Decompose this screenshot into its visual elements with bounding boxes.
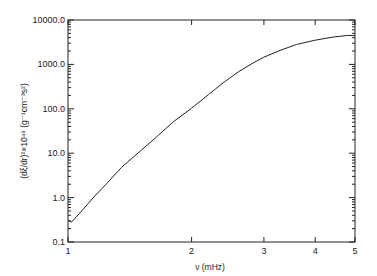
y-tick-label: 10000.0	[32, 15, 65, 25]
y-tick-label: 1000.0	[37, 59, 65, 69]
chart: 0.11.010.0100.01000.010000.0 12345 (dξ/d…	[0, 0, 377, 276]
x-tick-label: 4	[313, 246, 318, 256]
x-axis-label: ν (mHz)	[195, 262, 225, 272]
x-tick-label: 5	[352, 246, 357, 256]
y-tick-label: 10.0	[47, 148, 65, 158]
y-tick-label: 1.0	[52, 193, 65, 203]
y-tick-label: 100.0	[42, 104, 65, 114]
x-tick-label: 3	[261, 246, 266, 256]
x-tick-label: 1	[65, 246, 70, 256]
data-line	[68, 35, 355, 222]
x-axis-ticks: 12345	[65, 20, 357, 256]
x-tick-label: 2	[189, 246, 194, 256]
plot-frame	[68, 20, 355, 242]
y-axis-label: (dξ/dr)²×10⁴⁹ (g⁻¹cm⁻³s²)	[19, 83, 29, 179]
y-tick-label: 0.1	[52, 237, 65, 247]
